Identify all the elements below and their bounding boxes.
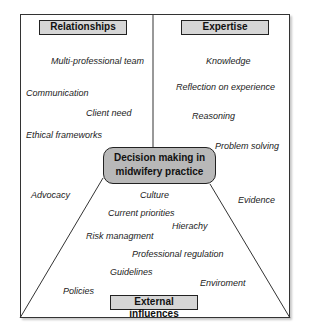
external-item: Risk managment [86, 231, 154, 241]
expertise-item: Reasoning [192, 111, 235, 121]
external-item: Enviroment [200, 278, 246, 288]
external-item: Policies [63, 286, 94, 296]
relationships-item: Communication [26, 88, 89, 98]
expertise-header: Expertise [181, 20, 269, 35]
center-line-2: midwifery practice [104, 165, 215, 179]
external-item: Hierachy [172, 221, 208, 231]
decision-making-center-node: Decision making in midwifery practice [103, 147, 216, 184]
expertise-item: Evidence [238, 195, 275, 205]
external-item: Current priorities [108, 208, 175, 218]
center-line-1: Decision making in [104, 151, 215, 165]
external-item: Professional regulation [132, 249, 224, 259]
expertise-item: Reflection on experience [176, 82, 275, 92]
relationships-header: Relationships [39, 20, 127, 35]
external-influences-header: External influences [110, 295, 198, 310]
external-item: Guidelines [110, 267, 153, 277]
relationships-item: Ethical frameworks [26, 130, 102, 140]
expertise-item: Problem solving [215, 141, 279, 151]
external-item: Culture [140, 190, 169, 200]
relationships-item: Advocacy [31, 190, 70, 200]
relationships-item: Multi-professional team [51, 56, 144, 66]
relationships-item: Client need [86, 108, 132, 118]
expertise-item: Knowledge [206, 56, 251, 66]
